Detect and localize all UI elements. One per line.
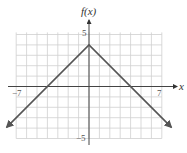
x-min-label: −7 [12,88,22,98]
y-max-label: 5 [82,28,87,38]
y-min-label: −5 [76,133,86,143]
x-max-label: 7 [157,88,162,98]
y-axis-label: f(x) [81,5,97,18]
x-axis-label: x [178,80,184,92]
function-graph: f(x) x −7 7 5 −5 [0,0,187,153]
